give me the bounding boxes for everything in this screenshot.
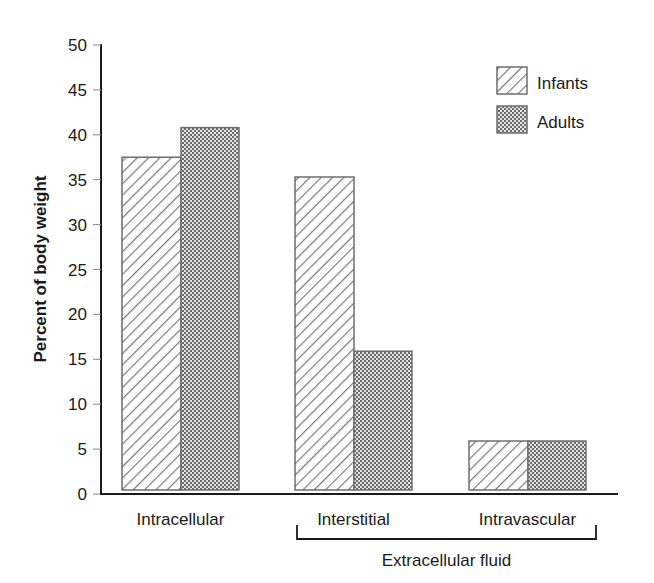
bar-intracellular-infants — [122, 157, 181, 490]
bar-interstitial-adults — [354, 351, 412, 490]
y-tick-label: 0 — [78, 485, 87, 504]
legend-swatch-infants — [497, 67, 527, 94]
x-axis: IntracellularInterstitialIntravascular — [100, 494, 618, 529]
y-tick-label: 25 — [68, 261, 87, 280]
y-tick-label: 30 — [68, 216, 87, 235]
bar-interstitial-infants — [295, 177, 354, 490]
y-axis-label: Percent of body weight — [31, 175, 50, 362]
category-label: Intravascular — [479, 510, 577, 529]
y-tick-label: 35 — [68, 171, 87, 190]
y-tick-label: 40 — [68, 126, 87, 145]
category-label: Interstitial — [317, 510, 390, 529]
legend-label-infants: Infants — [537, 74, 588, 93]
bars — [122, 128, 586, 490]
group-annotation-label: Extracellular fluid — [382, 551, 511, 570]
bar-intravascular-adults — [528, 441, 586, 490]
y-tick-label: 50 — [68, 36, 87, 55]
y-tick-label: 5 — [78, 440, 87, 459]
legend-swatch-adults — [497, 106, 527, 133]
y-tick-label: 20 — [68, 305, 87, 324]
bar-intracellular-adults — [181, 128, 239, 490]
y-tick-label: 10 — [68, 395, 87, 414]
category-label: Intracellular — [137, 510, 225, 529]
y-tick-label: 15 — [68, 350, 87, 369]
y-tick-label: 45 — [68, 81, 87, 100]
legend-label-adults: Adults — [537, 113, 584, 132]
extracellular-bracket: Extracellular fluid — [297, 525, 596, 570]
bar-intravascular-infants — [469, 441, 528, 490]
y-axis: 05101520253035404550Percent of body weig… — [31, 36, 101, 504]
bar-chart: 05101520253035404550Percent of body weig… — [0, 0, 654, 583]
legend: InfantsAdults — [497, 67, 588, 133]
